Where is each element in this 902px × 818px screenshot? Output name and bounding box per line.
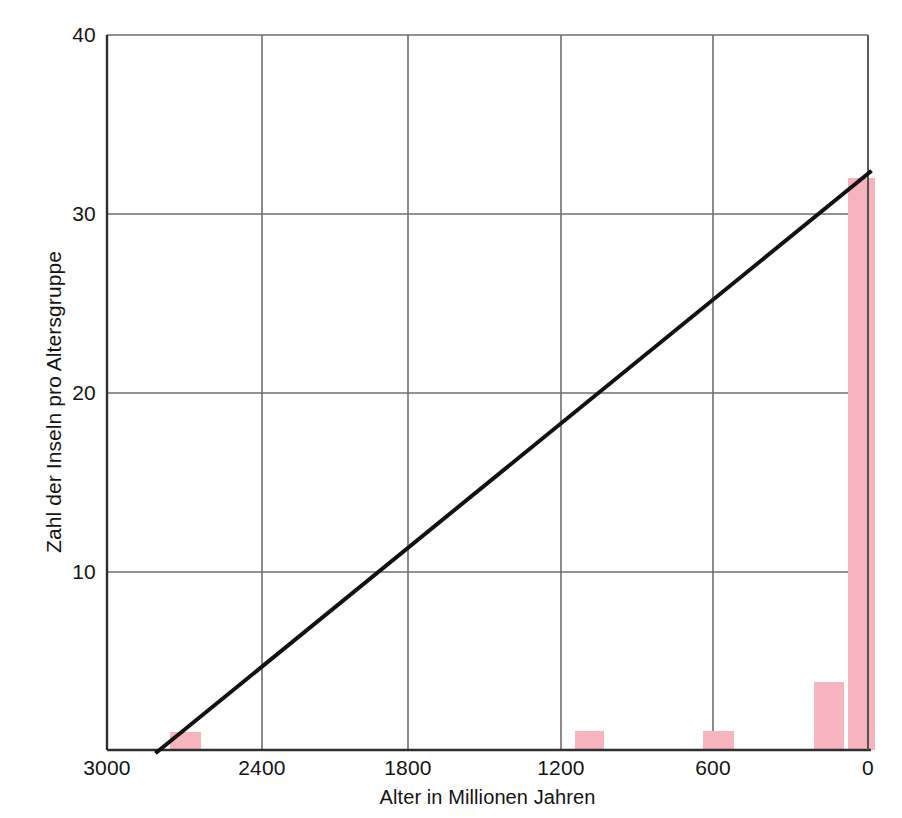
x-axis-title: Alter in Millionen Jahren: [107, 786, 868, 809]
bar-30: [848, 178, 875, 750]
bar-185: [814, 682, 844, 750]
bar-1230: [575, 731, 604, 750]
x-tick-0: 0: [862, 756, 874, 780]
x-tick-2400: 2400: [238, 756, 286, 780]
x-tick-600: 600: [695, 756, 731, 780]
x-tick-1800: 1800: [384, 756, 432, 780]
x-tick-3000: 3000: [83, 756, 131, 780]
plot-area: [0, 0, 902, 818]
bar-2750: [170, 732, 201, 750]
bar-620: [703, 731, 734, 750]
x-tick-1200: 1200: [537, 756, 585, 780]
chart-figure: 40 30 20 10 Zahl der Inseln pro Altersgr…: [0, 0, 902, 818]
